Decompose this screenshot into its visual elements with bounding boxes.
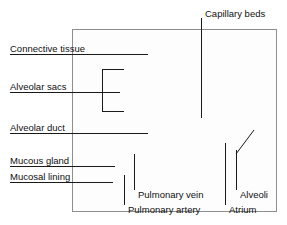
leader-connective-tissue — [120, 54, 148, 55]
label-connective-tissue: Connective tissue — [10, 43, 120, 55]
leader-alveolar-sacs-lower — [102, 111, 124, 112]
leader-alveolar-duct — [100, 133, 148, 134]
label-alveolar-duct: Alveolar duct — [10, 122, 100, 134]
label-pulmonary-vein: Pulmonary vein — [138, 189, 203, 200]
label-alveoli: Alveoli — [240, 189, 268, 200]
leader-pulmonary-artery — [124, 175, 125, 205]
leader-mucosal-lining — [105, 182, 113, 183]
leader-alveolar-sacs-bracket — [102, 69, 103, 112]
label-capillary-beds: Capillary beds — [205, 8, 265, 19]
leader-pulmonary-vein — [134, 154, 135, 190]
leader-alveolar-sacs-stem — [102, 92, 120, 93]
leader-alveoli — [236, 150, 237, 190]
label-pulmonary-artery: Pulmonary artery — [128, 204, 200, 215]
leader-alveolar-sacs-upper — [102, 69, 124, 70]
label-alveolar-sacs: Alveolar sacs — [10, 81, 102, 93]
leader-capillary-beds — [201, 18, 202, 118]
label-mucous-gland: Mucous gland — [10, 155, 105, 167]
leader-alveoli-branch — [228, 128, 258, 156]
figure-root: Capillary beds Connective tissue Alveola… — [0, 0, 287, 225]
leader-mucous-gland — [105, 166, 115, 167]
leader-atrium — [225, 143, 226, 205]
diagram-frame — [72, 29, 277, 212]
label-mucosal-lining: Mucosal lining — [10, 171, 105, 183]
label-atrium: Atrium — [229, 204, 256, 215]
